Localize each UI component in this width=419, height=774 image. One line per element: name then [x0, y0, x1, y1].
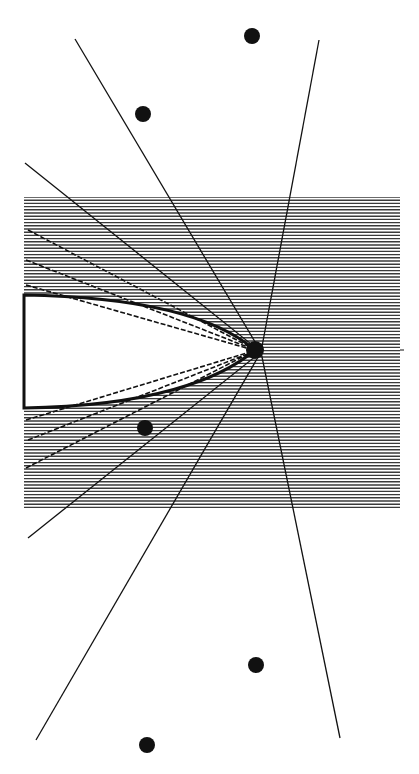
ray-line [75, 39, 261, 352]
image-point-dot [248, 657, 264, 673]
ray-line [261, 352, 340, 738]
focus-point [246, 341, 264, 359]
hatched-region [24, 197, 400, 507]
diagram-canvas [0, 0, 419, 774]
image-point-dot [244, 28, 260, 44]
ray-line [28, 352, 261, 538]
ray-diagram [0, 0, 419, 774]
ray-line [36, 352, 261, 740]
image-point-dot [135, 106, 151, 122]
image-point-dot [139, 737, 155, 753]
image-point-dot [137, 420, 153, 436]
